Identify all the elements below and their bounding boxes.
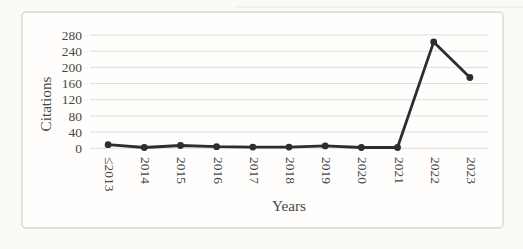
data-point-marker-le2013 [105, 141, 112, 148]
x-axis-tick-label: 2019 [319, 157, 334, 184]
y-axis-tick-label: 280 [62, 28, 83, 43]
x-axis-tick-label: 2020 [355, 157, 370, 184]
y-axis-tick-label: 160 [62, 76, 83, 91]
x-axis-tick-label: 2023 [464, 157, 479, 184]
x-axis-tick-label: 2016 [211, 157, 226, 184]
x-axis-tick-label: 2015 [174, 157, 189, 184]
x-axis-title: Years [272, 197, 306, 214]
chart-panel-border [22, 12, 503, 228]
data-point-marker-2022 [430, 39, 437, 46]
citations-by-year-line-chart: 04080120160200240280≤2013201420152016201… [0, 0, 523, 249]
y-axis-tick-label: 80 [69, 109, 83, 124]
chart-canvas: 04080120160200240280≤2013201420152016201… [0, 0, 523, 249]
x-axis-tick-label: 2021 [392, 157, 407, 184]
data-point-marker-2020 [358, 144, 365, 151]
y-axis-tick-label: 240 [62, 44, 83, 59]
x-axis-tick-label: 2022 [428, 157, 443, 184]
x-axis-tick-label: 2014 [138, 157, 153, 184]
x-axis-tick-label: 2018 [283, 157, 298, 184]
y-axis-tick-label: 120 [62, 92, 83, 107]
data-point-marker-2023 [467, 74, 474, 81]
data-point-marker-2021 [394, 144, 401, 151]
y-axis-tick-label: 0 [75, 141, 82, 156]
y-axis-tick-label: 40 [69, 125, 83, 140]
data-point-marker-2016 [213, 143, 220, 150]
y-axis-tick-label: 200 [62, 60, 83, 75]
x-axis-tick-label: ≤2013 [102, 157, 117, 192]
y-axis-title: Citations [37, 76, 54, 131]
data-point-marker-2015 [177, 142, 184, 149]
data-point-marker-2014 [141, 144, 148, 151]
data-point-marker-2018 [286, 144, 293, 151]
x-axis-tick-label: 2017 [247, 157, 262, 184]
data-point-marker-2019 [322, 143, 329, 150]
data-point-marker-2017 [249, 144, 256, 151]
